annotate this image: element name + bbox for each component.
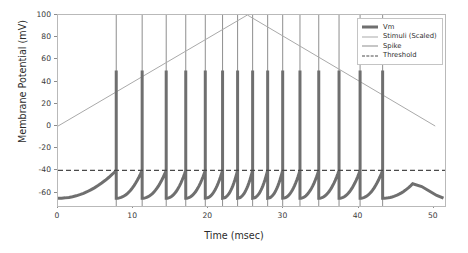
y-tick-label: 100 — [3, 10, 51, 19]
legend-item[interactable]: Vm — [361, 23, 439, 32]
legend-label: Vm — [383, 23, 394, 32]
legend-swatch-icon — [361, 51, 379, 60]
y-tick-label: -60 — [3, 187, 51, 196]
x-axis-label: Time (msec) — [0, 230, 468, 241]
y-tick-label: -20 — [3, 143, 51, 152]
legend: VmStimuli (Scaled)SpikeThreshold — [357, 18, 443, 65]
x-tick-label: 50 — [428, 211, 438, 220]
legend-item[interactable]: Stimuli (Scaled) — [361, 32, 439, 41]
legend-label: Stimuli (Scaled) — [383, 32, 437, 41]
legend-label: Threshold — [383, 51, 417, 60]
legend-swatch-icon — [361, 23, 379, 32]
y-tick-label: 80 — [3, 32, 51, 41]
x-tick-label: 0 — [55, 211, 60, 220]
x-tick-label: 10 — [127, 211, 137, 220]
x-tick-label: 30 — [278, 211, 288, 220]
x-tick-label: 20 — [202, 211, 212, 220]
y-tick-label: 40 — [3, 76, 51, 85]
y-tick-label: 60 — [3, 54, 51, 63]
y-tick-label: 0 — [3, 121, 51, 130]
y-tick-label: 20 — [3, 98, 51, 107]
legend-swatch-icon — [361, 42, 379, 51]
membrane-potential-figure: Membrane Potential (mV) -60-40-200204060… — [0, 0, 468, 253]
legend-item[interactable]: Spike — [361, 42, 439, 51]
legend-item[interactable]: Threshold — [361, 51, 439, 60]
vm-trace — [58, 71, 444, 199]
legend-label: Spike — [383, 42, 401, 51]
legend-swatch-icon — [361, 32, 379, 41]
x-tick-label: 40 — [353, 211, 363, 220]
y-tick-label: -40 — [3, 165, 51, 174]
